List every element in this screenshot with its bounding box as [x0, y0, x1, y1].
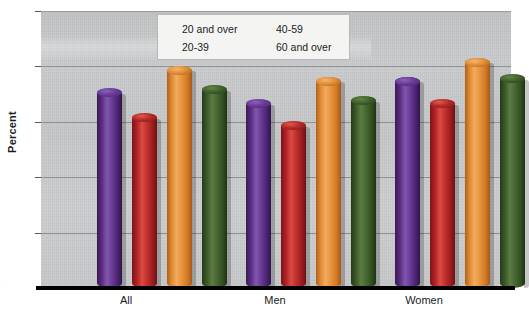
bar-top-cap [167, 66, 192, 75]
bar-body [167, 66, 192, 288]
x-label-all: All [66, 294, 186, 306]
bar-men-20-39 [281, 122, 306, 288]
bar-all-40-59 [167, 66, 192, 288]
gridline-50 [41, 11, 511, 12]
bar-top-cap [132, 113, 157, 122]
bar-body [395, 77, 420, 288]
legend-label-1: 40-59 [276, 23, 303, 35]
x-label-women: Women [364, 294, 484, 306]
bar-body [97, 89, 122, 288]
legend-item-0[interactable]: 20 and over [165, 22, 259, 36]
bar-body [132, 114, 157, 289]
legend-swatch-purple-icon [165, 22, 177, 36]
bar-body [246, 100, 271, 288]
bar-top-cap [97, 88, 122, 97]
bar-body [465, 58, 490, 288]
legend-label-2: 20-39 [182, 41, 209, 53]
bar-body [500, 75, 525, 288]
bar-women-60-and-over [500, 75, 525, 288]
bar-men-60-and-over [351, 97, 376, 288]
bar-all-20-39 [132, 114, 157, 289]
bar-women-40-59 [465, 58, 490, 288]
legend-swatch-red-icon [165, 40, 177, 54]
legend-item-3[interactable]: 60 and over [259, 40, 353, 54]
legend-label-0: 20 and over [182, 23, 237, 35]
bar-all-20-and-over [97, 89, 122, 288]
legend-grid: 20 and over 40-59 20-39 60 and over [165, 20, 343, 56]
bar-top-cap [395, 77, 420, 86]
bar-body [351, 97, 376, 288]
bar-men-40-59 [316, 77, 341, 288]
legend-swatch-orange-icon [259, 22, 271, 36]
legend-item-1[interactable]: 40-59 [259, 22, 353, 36]
bar-body [430, 100, 455, 288]
gridline-40 [41, 66, 511, 67]
x-label-men: Men [215, 294, 335, 306]
bar-women-20-39 [430, 100, 455, 288]
legend-item-2[interactable]: 20-39 [165, 40, 259, 54]
y-axis-title: Percent [6, 97, 18, 167]
legend: 20 and over 40-59 20-39 60 and over [157, 14, 350, 60]
bar-women-20-and-over [395, 77, 420, 288]
bar-body [281, 122, 306, 288]
bar-body [202, 86, 227, 288]
bar-all-60-and-over [202, 86, 227, 288]
bar-body [316, 77, 341, 288]
legend-swatch-green-icon [259, 40, 271, 54]
bar-top-cap [316, 77, 341, 86]
legend-label-3: 60 and over [276, 41, 331, 53]
bar-men-20-and-over [246, 100, 271, 288]
bar-top-cap [465, 58, 490, 67]
